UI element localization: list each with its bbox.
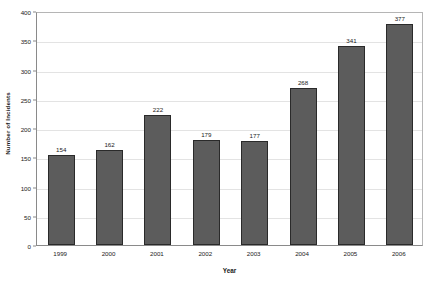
y-tick-mark [33,99,36,100]
y-tick-label: 50 [24,213,31,220]
y-tick-label: 400 [21,9,31,16]
bar [96,150,123,245]
bar-value-label: 154 [48,146,75,153]
bar [338,46,365,245]
bar [193,140,220,245]
bar-chart: Number of Incidents 05010015020025030035… [0,0,429,284]
bar-group: 162 [96,13,123,245]
bar-group: 154 [48,13,75,245]
bar-group: 341 [338,13,365,245]
x-tick-label: 2006 [375,250,423,257]
bar-group: 222 [144,13,171,245]
bar-value-label: 222 [144,106,171,113]
x-tick-label: 2004 [278,250,326,257]
y-tick-mark [33,187,36,188]
bars-layer: 154162222179177268341377 [37,13,422,245]
y-tick-mark [33,158,36,159]
bar [241,141,268,245]
y-tick-mark [33,246,36,247]
y-tick-label: 0 [28,243,31,250]
y-tick-mark [33,70,36,71]
bar [290,88,317,245]
bar [386,24,413,245]
plot-area: 154162222179177268341377 [36,12,423,246]
y-tick-label: 200 [21,126,31,133]
y-tick-label: 100 [21,184,31,191]
x-axis-tick-labels: 19992000200120022003200420052006 [36,250,423,262]
y-tick-label: 150 [21,155,31,162]
bar-group: 268 [290,13,317,245]
y-axis-title-label: Number of Incidents [4,92,11,155]
x-tick-label: 2002 [181,250,229,257]
y-tick-label: 250 [21,96,31,103]
y-tick-mark [33,41,36,42]
x-tick-label: 1999 [36,250,84,257]
x-axis-title: Year [36,267,423,274]
y-tick-label: 300 [21,67,31,74]
bar-group: 177 [241,13,268,245]
y-axis-tick-labels: 050100150200250300350400 [14,12,33,246]
x-tick-label: 2003 [230,250,278,257]
bar-value-label: 162 [96,141,123,148]
bar-value-label: 341 [338,37,365,44]
y-tick-mark [33,216,36,217]
y-tick-label: 350 [21,38,31,45]
x-tick-label: 2000 [84,250,132,257]
y-axis-title: Number of Incidents [0,0,14,246]
bar [144,115,171,245]
y-tick-mark [33,12,36,13]
bar-group: 377 [386,13,413,245]
bar-value-label: 177 [241,132,268,139]
bar-value-label: 268 [290,79,317,86]
bar-group: 179 [193,13,220,245]
x-tick-label: 2005 [326,250,374,257]
bar-value-label: 179 [193,131,220,138]
bar-value-label: 377 [386,15,413,22]
bar [48,155,75,245]
x-tick-label: 2001 [133,250,181,257]
y-tick-mark [33,129,36,130]
